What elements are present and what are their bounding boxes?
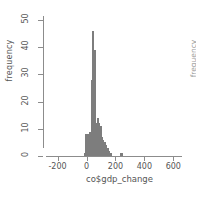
histogram-plot: frequency co$gdp_change 01020304050 -200… bbox=[0, 0, 196, 199]
histogram-bar bbox=[110, 153, 112, 156]
histogram-bars bbox=[0, 0, 196, 199]
histogram-bar bbox=[121, 153, 123, 156]
neighbor-plot-edge: frequency bbox=[188, 30, 196, 92]
neighbor-plot-label: frequency bbox=[189, 30, 197, 90]
